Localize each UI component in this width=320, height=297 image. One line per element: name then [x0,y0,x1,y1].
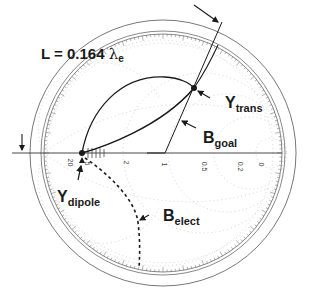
b-elect-sub: elect [175,215,200,227]
y-dipole-sub: dipole [68,196,100,208]
axis-tick-20: 20 [67,159,74,167]
arc-extension [194,45,218,88]
b-goal-sub: goal [215,137,238,149]
b-elect-label: Belect [163,208,200,224]
constant-conductance-arc [82,77,194,153]
b-goal-main: B [203,129,215,146]
transmission-line-arc [82,88,194,153]
y-dipole-point [79,150,85,156]
axis-tick-2: 2 [123,161,130,165]
y-trans-point [191,85,197,91]
lambda-subscript: e [118,53,124,64]
b-elect-arrow [140,215,149,220]
b-goal-arrow [182,121,196,128]
y-trans-label: Ytrans [225,95,263,111]
y-trans-arrow [198,91,210,98]
length-prefix: L = 0.164 [41,45,109,62]
axis-tick-5: 5 [84,162,91,166]
y-dipole-label: Ydipole [57,189,100,205]
axis-tick-0.2: 0.2 [237,162,244,172]
length-label: L = 0.164 λe [41,46,124,62]
y-dipole-arrow [78,166,81,180]
y-trans-sub: trans [236,102,263,114]
lambda-symbol: λ [109,45,119,63]
length-arrow-top [194,5,218,22]
y-dipole-main: Y [57,188,68,205]
y-trans-main: Y [225,94,236,111]
axis-tick-1: 1 [161,163,168,167]
b-elect-main: B [163,207,175,224]
axis-tick-0: 0 [258,163,265,167]
b-elect-dashed-arc [85,158,140,268]
b-goal-label: Bgoal [203,130,237,146]
axis-tick-0.5: 0.5 [201,162,208,172]
